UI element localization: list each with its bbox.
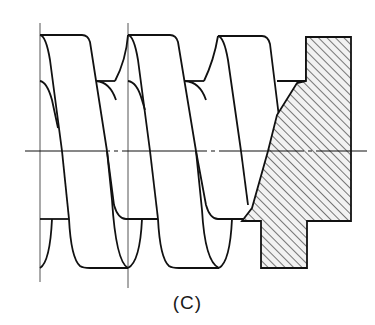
- screw-thread-drawing: [0, 0, 375, 325]
- diagram-canvas: [0, 0, 375, 325]
- figure-caption: (C): [0, 292, 375, 314]
- sectioned-nut: [242, 37, 351, 268]
